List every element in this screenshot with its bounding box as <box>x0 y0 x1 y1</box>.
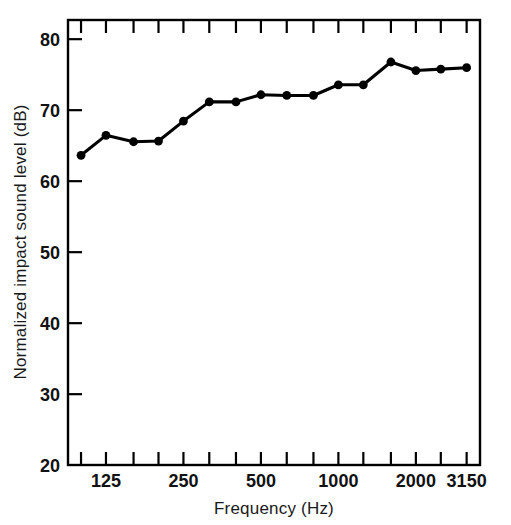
data-point <box>232 97 241 106</box>
x-axis-title: Frequency (Hz) <box>214 499 334 518</box>
y-tick-label: 70 <box>40 101 60 121</box>
y-tick-label: 80 <box>40 30 60 50</box>
data-point <box>411 66 420 75</box>
y-axis-title-text: Normalized impact sound level (dB) <box>11 104 30 379</box>
data-point <box>179 117 188 126</box>
chart-background <box>0 0 511 525</box>
x-tick-label: 3150 <box>447 471 487 491</box>
x-tick-label: 500 <box>246 471 276 491</box>
x-tick-label: 250 <box>168 471 198 491</box>
data-point <box>436 65 445 74</box>
data-point <box>102 131 111 140</box>
y-tick-label: 20 <box>40 456 60 476</box>
y-tick-label: 30 <box>40 385 60 405</box>
data-point <box>462 63 471 72</box>
x-tick-label: 2000 <box>396 471 436 491</box>
y-tick-label: 40 <box>40 314 60 334</box>
x-tick-label: 1000 <box>318 471 358 491</box>
x-tick-label: 125 <box>91 471 121 491</box>
y-tick-label: 50 <box>40 243 60 263</box>
y-tick-label: 60 <box>40 172 60 192</box>
data-point <box>129 137 138 146</box>
impact-sound-level-chart: 80 70 60 50 40 30 20 Normalized impact s… <box>0 0 511 525</box>
data-point <box>154 137 163 146</box>
data-point <box>309 91 318 100</box>
data-point <box>282 91 291 100</box>
y-axis-title: Normalized impact sound level (dB) <box>11 104 30 379</box>
data-point <box>205 97 214 106</box>
data-point <box>334 80 343 89</box>
data-point <box>387 58 396 67</box>
x-axis-title-text: Frequency (Hz) <box>214 499 334 518</box>
data-point <box>77 151 86 160</box>
data-point <box>257 90 266 99</box>
data-point <box>359 80 368 89</box>
